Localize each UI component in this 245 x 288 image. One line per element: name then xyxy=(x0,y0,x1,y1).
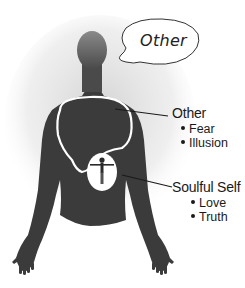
other-item-fear: Fear xyxy=(181,122,215,136)
head xyxy=(77,31,107,69)
bullet-icon xyxy=(181,126,185,130)
diagram: Other Other Fear Illusion Soulful Self L… xyxy=(0,0,245,288)
bullet-icon xyxy=(181,140,185,144)
soulful-self-item-love: Love xyxy=(191,196,226,210)
other-item-illusion: Illusion xyxy=(181,136,228,150)
speech-bubble-text: Other xyxy=(140,31,187,50)
soulful-self-label: Soulful Self xyxy=(172,179,240,195)
bullet-icon xyxy=(191,214,195,218)
other-label: Other xyxy=(172,105,206,121)
soulful-self-item-truth: Truth xyxy=(191,210,228,224)
bullet-icon xyxy=(191,200,195,204)
